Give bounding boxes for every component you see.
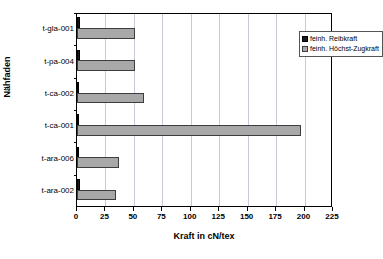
legend-swatch-icon-hoechst-zugkraft: [302, 46, 308, 52]
bar-reibkraft: [77, 179, 80, 190]
legend-label-reibkraft: feinh. Reibkraft: [310, 35, 357, 43]
bar-hoechst-zugkraft: [77, 190, 116, 201]
bar-hoechst-zugkraft: [77, 93, 144, 104]
bar-group: [77, 111, 331, 143]
y-axis-tick-label: t-gla-001: [4, 24, 74, 33]
x-axis-tick-mark: [218, 207, 219, 211]
plot-area: feinh. Reibkraft feinh. Höchst-Zugkraft: [76, 13, 332, 207]
bar-hoechst-zugkraft: [77, 157, 119, 168]
bar-rows: [77, 14, 331, 206]
x-axis-tick-mark: [275, 207, 276, 211]
legend-item-hoechst-zugkraft: feinh. Höchst-Zugkraft: [302, 44, 379, 54]
bar-reibkraft: [77, 50, 80, 61]
bar-reibkraft: [77, 147, 79, 158]
x-axis-tick-mark: [104, 207, 105, 211]
y-axis-tick-labels: t-gla-001t-pa-004t-ca-002t-ca-001t-ara-0…: [2, 13, 74, 207]
x-axis-tick-label: 225: [312, 212, 352, 221]
bar-hoechst-zugkraft: [77, 28, 135, 39]
x-axis-tick-mark: [247, 207, 248, 211]
bar-group: [77, 143, 331, 175]
x-axis-tick-mark: [332, 207, 333, 211]
bar-reibkraft: [77, 82, 79, 93]
bar-group: [77, 14, 331, 46]
bar-group: [77, 79, 331, 111]
legend: feinh. Reibkraft feinh. Höchst-Zugkraft: [299, 31, 383, 57]
bar-reibkraft: [77, 114, 79, 125]
x-axis-tick-mark: [133, 207, 134, 211]
x-axis-tick-mark: [190, 207, 191, 211]
x-axis-title: Kraft in cN/tex: [76, 231, 332, 241]
x-axis-ticks: 0255075100125150175200225: [76, 207, 332, 225]
bar-hoechst-zugkraft: [77, 125, 301, 136]
y-axis-tick-label: t-ca-001: [4, 121, 74, 130]
legend-swatch-icon-reibkraft: [302, 36, 308, 42]
x-axis-tick-mark: [161, 207, 162, 211]
bar-group: [77, 176, 331, 208]
x-axis-tick-mark: [76, 207, 77, 211]
y-axis-tick-label: t-ara-002: [4, 186, 74, 195]
bar-group: [77, 46, 331, 78]
y-axis-tick-label: t-ca-002: [4, 89, 74, 98]
y-axis-tick-label: t-pa-004: [4, 57, 74, 66]
x-axis-tick-mark: [304, 207, 305, 211]
legend-item-reibkraft: feinh. Reibkraft: [302, 34, 379, 44]
bar-reibkraft: [77, 17, 80, 28]
bar-hoechst-zugkraft: [77, 60, 135, 71]
y-axis-tick-label: t-ara-006: [4, 154, 74, 163]
legend-label-hoechst-zugkraft: feinh. Höchst-Zugkraft: [310, 45, 379, 53]
